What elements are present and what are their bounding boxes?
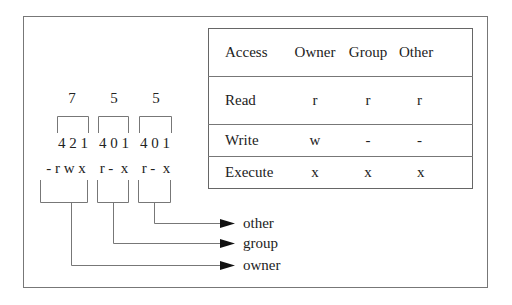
- label-other: other: [243, 216, 274, 231]
- perm-string-other: r - x: [136, 161, 176, 176]
- table-header-row: Access Owner Group Other: [209, 29, 473, 77]
- lower-bracket-group: [98, 180, 129, 203]
- label-group: group: [243, 236, 278, 251]
- header-access: Access: [209, 29, 290, 77]
- table-row: Read r r r: [209, 77, 473, 125]
- bit-weights-group: 4 0 1: [93, 136, 135, 151]
- cell-execute-owner: x: [289, 157, 341, 189]
- upper-bracket-group: [99, 117, 129, 134]
- connector-owner: [72, 203, 223, 266]
- cell-read-owner: r: [289, 77, 341, 125]
- lower-bracket-owner: [41, 180, 88, 203]
- table-row: Execute x x x: [209, 157, 473, 189]
- upper-bracket-other: [140, 117, 172, 134]
- perm-string-group: r - x: [94, 161, 134, 176]
- row-label-read: Read: [209, 77, 290, 125]
- connector-other: [155, 203, 223, 224]
- table-row: Write w - -: [209, 125, 473, 157]
- bit-weights-other: 4 0 1: [134, 136, 176, 151]
- arrow-group-icon: [220, 239, 235, 248]
- arrow-other-icon: [220, 219, 235, 228]
- arrow-owner-icon: [220, 261, 235, 270]
- header-group: Group: [341, 29, 395, 77]
- cell-write-group: -: [341, 125, 395, 157]
- octal-digit-owner: 7: [62, 91, 82, 106]
- octal-digit-group: 5: [104, 91, 124, 106]
- row-label-execute: Execute: [209, 157, 290, 189]
- cell-read-other: r: [395, 77, 473, 125]
- cell-read-group: r: [341, 77, 395, 125]
- header-other: Other: [395, 29, 473, 77]
- row-label-write: Write: [209, 125, 290, 157]
- cell-execute-other: x: [395, 157, 473, 189]
- cell-execute-group: x: [341, 157, 395, 189]
- lower-bracket-other: [139, 180, 171, 203]
- cell-write-owner: w: [289, 125, 341, 157]
- octal-digit-other: 5: [146, 91, 166, 106]
- cell-write-other: -: [395, 125, 473, 157]
- permission-table: Access Owner Group Other Read r r r Writ…: [208, 28, 473, 189]
- perm-string-owner: - r w x: [38, 161, 94, 176]
- label-owner: owner: [243, 258, 281, 273]
- header-owner: Owner: [289, 29, 341, 77]
- upper-bracket-owner: [58, 117, 89, 134]
- bit-weights-owner: 4 2 1: [52, 136, 94, 151]
